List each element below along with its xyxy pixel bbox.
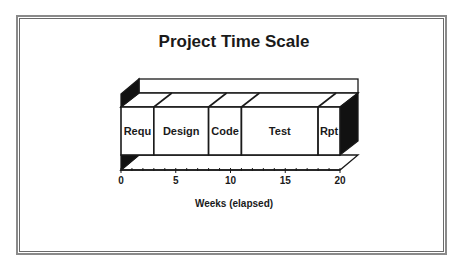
- segment-label: Requ: [124, 125, 152, 137]
- segment-label: Rpt: [320, 125, 339, 137]
- back-wall-panel: [139, 79, 358, 93]
- x-tick-label: 0: [118, 175, 124, 186]
- x-axis-label: Weeks (elapsed): [0, 198, 468, 209]
- x-tick-label: 10: [225, 175, 237, 186]
- x-tick-label: 15: [280, 175, 292, 186]
- timeline-chart: RequDesignCodeTestRpt05101520: [0, 0, 468, 273]
- x-tick-label: 20: [334, 175, 346, 186]
- segment-label: Design: [163, 125, 200, 137]
- floor-face: [121, 155, 358, 170]
- segment-label: Test: [269, 125, 291, 137]
- x-tick-label: 5: [173, 175, 179, 186]
- segment-label: Code: [211, 125, 239, 137]
